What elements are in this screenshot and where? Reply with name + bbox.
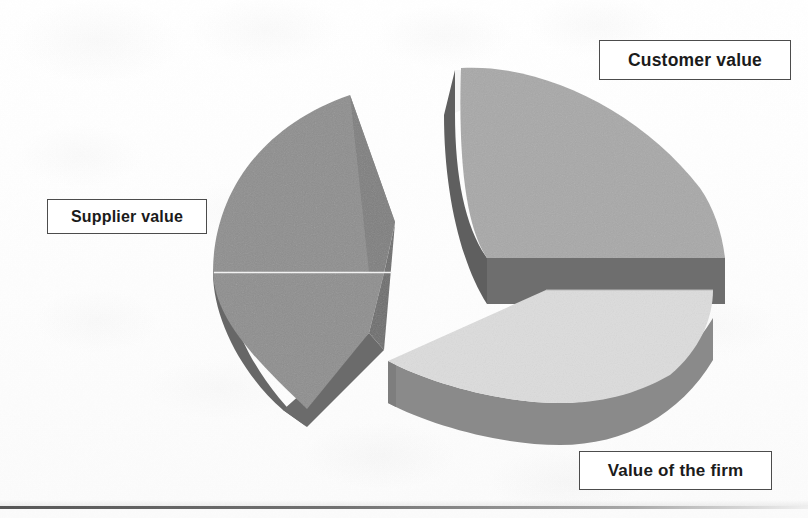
pie-slice-value-of-the-firm[interactable] [388,290,713,445]
pie-slice-supplier-value[interactable] [213,95,395,427]
callout-text-supplier-value: Supplier value [71,208,183,226]
firm-side-wall-cap [388,361,396,407]
scanned-page: Customer value Supplier value Value of t… [0,0,808,518]
pie-slice-customer-value[interactable] [444,68,725,304]
callout-label-customer-value[interactable]: Customer value [599,40,791,80]
callout-label-supplier-value[interactable]: Supplier value [47,199,207,234]
callout-label-value-of-the-firm[interactable]: Value of the firm [579,451,772,490]
customer-top-face [460,68,725,258]
scan-edge-line [0,506,808,509]
customer-edge-highlight [455,70,461,113]
callout-text-customer-value: Customer value [628,50,762,71]
callout-text-value-of-the-firm: Value of the firm [608,461,744,481]
